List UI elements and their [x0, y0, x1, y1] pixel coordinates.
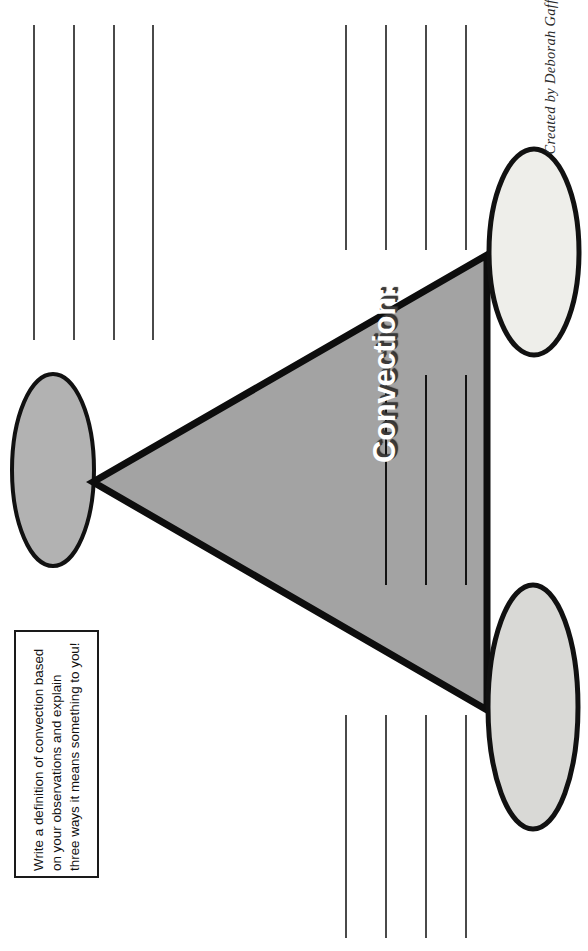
- node-top-right-ellipse[interactable]: [489, 149, 579, 355]
- instruction-box: Write a definition of convection based o…: [14, 630, 99, 878]
- writing-line: [465, 375, 467, 585]
- credit-text: Created by Deborah Gaff: [542, 0, 558, 154]
- node-bottom-right-ellipse[interactable]: [488, 585, 578, 829]
- instruction-line-3: three ways it means something to you!: [66, 637, 84, 871]
- instruction-line-1: Write a definition of convection based: [29, 637, 47, 871]
- worksheet-page: Convection: Write a definition of convec…: [0, 0, 588, 951]
- writing-line: [425, 375, 427, 585]
- node-left-ellipse[interactable]: [12, 374, 94, 566]
- convection-triangle: [93, 255, 487, 710]
- credit-line: Created by Deborah Gaff: [541, 0, 559, 177]
- instruction-text: Write a definition of convection based o…: [21, 637, 93, 871]
- instruction-line-2: on your observations and explain: [47, 637, 65, 871]
- writing-line: [385, 375, 387, 585]
